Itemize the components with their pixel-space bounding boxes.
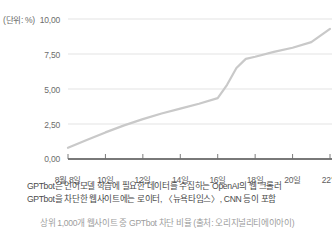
- footer-note-text: 상위 1,000개 웹사이트 중 GPTbot 차단 비율 (출처: 오리지널리…: [0, 217, 332, 229]
- gridlines: [68, 19, 332, 124]
- line-chart: 10,00 7,50 5,00 2,50 0,00 8월 8일10일12일14일…: [0, 10, 332, 160]
- chart-figure: (단위: %) 10,00 7,50 5,00 2,50 0,00 8월 8: [0, 0, 332, 230]
- caption-line-2: GPTbot을 차단한 웹사이트에는 로이터, 〈뉴욕타임스〉, CNN 등이 …: [0, 193, 332, 206]
- plot-area: [0, 10, 332, 170]
- x-axis-ticks: [68, 154, 330, 159]
- footer-note: 상위 1,000개 웹사이트 중 GPTbot 차단 비율 (출처: 오리지널리…: [0, 217, 332, 230]
- data-series-line: [68, 29, 330, 148]
- caption-block: GPTbot은 언어모델 학습에 필요한 데이터를 수집하는 OpenAI의 웹…: [0, 180, 332, 205]
- caption-line-1: GPTbot은 언어모델 학습에 필요한 데이터를 수집하는 OpenAI의 웹…: [0, 180, 332, 193]
